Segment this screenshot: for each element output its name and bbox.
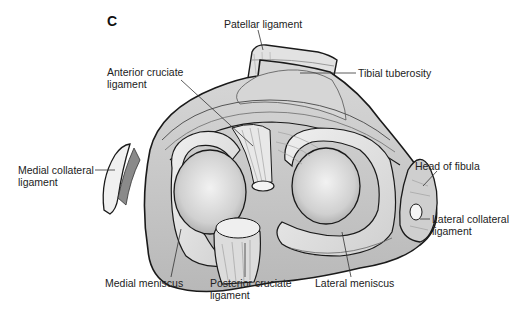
panel-letter: C (107, 13, 117, 29)
label-lateral-meniscus: Lateral meniscus (315, 277, 394, 289)
label-lateral-collateral-line1: Lateral collateral (432, 213, 509, 225)
label-head-of-fibula: Head of fibula (415, 160, 480, 172)
label-anterior-cruciate-line2: ligament (107, 78, 183, 90)
label-patellar-ligament: Patellar ligament (224, 18, 302, 30)
medial-collateral-ligament-shape (103, 144, 140, 214)
lateral-condyle (292, 148, 360, 224)
label-posterior-cruciate-line2: ligament (210, 289, 292, 301)
label-medial-collateral-ligament: Medial collateral ligament (18, 164, 94, 188)
label-medial-collateral-line2: ligament (18, 176, 94, 188)
label-medial-collateral-line1: Medial collateral (18, 164, 94, 176)
label-lateral-collateral-ligament: Lateral collateral ligament (432, 213, 509, 237)
posterior-cruciate-ligament-shape (214, 218, 260, 284)
label-lateral-collateral-line2: ligament (432, 225, 509, 237)
label-anterior-cruciate-ligament: Anterior cruciate ligament (107, 66, 183, 90)
label-tibial-tuberosity: Tibial tuberosity (358, 67, 431, 79)
label-posterior-cruciate-line1: Posterior cruciate (210, 277, 292, 289)
label-anterior-cruciate-line1: Anterior cruciate (107, 66, 183, 78)
knee-anatomy-figure: C Patellar ligament Anterior cruciate li… (0, 0, 512, 320)
label-posterior-cruciate-ligament: Posterior cruciate ligament (210, 277, 292, 301)
label-medial-meniscus: Medial meniscus (105, 277, 183, 289)
